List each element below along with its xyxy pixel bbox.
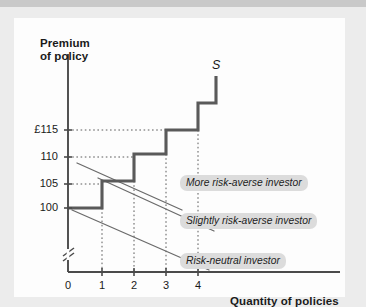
x-tick-label-1: 1 bbox=[95, 279, 109, 291]
supply-curve-label: S bbox=[212, 58, 220, 72]
y-axis-title-line2: of policy bbox=[40, 50, 90, 63]
chart-screenshot: Premium of policy Quantity of policies £… bbox=[0, 0, 366, 307]
annotation-risk-neutral-investor: Risk-neutral investor bbox=[180, 253, 286, 269]
y-tick-label-115: £115 bbox=[12, 123, 58, 135]
x-tick-label-4: 4 bbox=[191, 279, 205, 291]
x-tick-label-3: 3 bbox=[159, 279, 173, 291]
plot-area: Premium of policy Quantity of policies £… bbox=[14, 18, 345, 297]
demand-line-more-risk-averse bbox=[77, 163, 182, 210]
y-axis-title-line1: Premium bbox=[40, 37, 90, 50]
dotted-guide-lines-vertical bbox=[102, 130, 198, 272]
y-axis-title: Premium of policy bbox=[40, 37, 90, 62]
y-tick-label-105: 105 bbox=[12, 177, 58, 189]
dotted-guide-lines-horizontal bbox=[68, 130, 166, 184]
y-tick-label-110: 110 bbox=[12, 150, 58, 162]
top-gray-band bbox=[0, 0, 366, 7]
chart-panel: Premium of policy Quantity of policies £… bbox=[14, 18, 345, 297]
annotation-slightly-risk-averse-investor: Slightly risk-averse investor bbox=[180, 213, 317, 229]
x-tick-label-2: 2 bbox=[127, 279, 141, 291]
x-tick-label-0: 0 bbox=[61, 279, 75, 291]
y-tick-label-100: 100 bbox=[12, 201, 58, 213]
x-axis-title: Quantity of policies bbox=[230, 295, 339, 307]
annotation-more-risk-averse-investor: More risk-averse investor bbox=[180, 175, 308, 191]
